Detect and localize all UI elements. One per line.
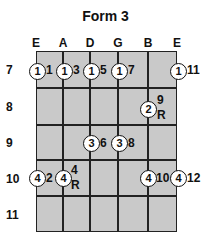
finger-dot: 1 <box>111 63 128 80</box>
string-line <box>147 51 149 232</box>
finger-dot: 4 <box>29 170 46 187</box>
scale-degree: 1 <box>46 63 53 77</box>
fret-number-7: 7 <box>6 63 28 77</box>
scale-degree: 2 <box>46 171 53 185</box>
string-label-high-e: E <box>169 36 185 50</box>
fret-line <box>36 195 177 197</box>
fret-number-10: 10 <box>6 172 28 186</box>
scale-degree: 4 <box>71 163 78 177</box>
finger-dot: 1 <box>56 63 73 80</box>
finger-dot: 3 <box>111 135 128 152</box>
fret-line <box>36 124 177 126</box>
root-marker: R <box>157 108 166 122</box>
scale-degree: 8 <box>128 136 135 150</box>
string-label-d: D <box>82 36 98 50</box>
string-label-a: A <box>55 36 71 50</box>
scale-degree: 9 <box>157 93 164 107</box>
fret-number-8: 8 <box>6 100 28 114</box>
fret-number-9: 9 <box>6 136 28 150</box>
finger-dot: 1 <box>29 63 46 80</box>
scale-degree: 3 <box>73 63 80 77</box>
root-marker: R <box>71 178 80 192</box>
scale-degree: 7 <box>128 63 135 77</box>
finger-dot: 1 <box>170 63 187 80</box>
finger-dot: 4 <box>55 170 72 187</box>
diagram-title: Form 3 <box>0 8 211 24</box>
scale-degree: 5 <box>100 63 107 77</box>
finger-dot: 4 <box>170 170 187 187</box>
scale-degree: 10 <box>156 171 169 185</box>
fret-number-11: 11 <box>6 208 28 222</box>
string-label-g: G <box>110 36 126 50</box>
finger-dot: 4 <box>140 170 157 187</box>
fret-line <box>36 87 177 89</box>
string-label-b: B <box>140 36 156 50</box>
fret-line <box>36 159 177 161</box>
scale-degree: 11 <box>187 63 200 77</box>
scale-degree: 6 <box>100 136 107 150</box>
scale-degree: 12 <box>187 171 200 185</box>
string-label-low-e: E <box>28 36 44 50</box>
finger-dot: 3 <box>83 135 100 152</box>
finger-dot: 1 <box>83 63 100 80</box>
finger-dot: 2 <box>140 101 157 118</box>
